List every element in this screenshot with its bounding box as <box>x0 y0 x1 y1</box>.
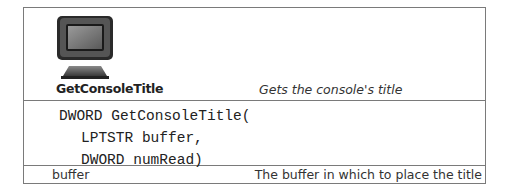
parameter-row: buffer The buffer in which to place the … <box>24 166 485 184</box>
parameter-name: buffer <box>52 167 89 182</box>
function-description: Gets the console's title <box>259 82 402 97</box>
function-reference-card: GetConsoleTitle Gets the console's title… <box>23 7 486 184</box>
signature-line: LPTSTR buffer, <box>81 130 203 146</box>
parameter-description: The buffer in which to place the title <box>255 167 482 182</box>
signature-row: DWORD GetConsoleTitle( LPTSTR buffer, DW… <box>24 101 485 166</box>
signature-line: DWORD GetConsoleTitle( <box>59 108 250 124</box>
console-monitor-icon <box>55 14 115 80</box>
header-row: GetConsoleTitle Gets the console's title <box>24 8 485 101</box>
function-name: GetConsoleTitle <box>56 81 163 96</box>
